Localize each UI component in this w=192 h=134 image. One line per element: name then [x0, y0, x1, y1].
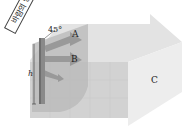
height-label: h	[28, 70, 33, 78]
arrow-c-label: C	[151, 76, 158, 85]
pipe-shadow	[39, 38, 41, 104]
arrow-a-label: A	[72, 30, 79, 39]
wind-diagram: 바람의 방향 45° A B C h	[0, 0, 192, 134]
arrow-b-label: B	[71, 55, 78, 64]
diagram-canvas	[0, 0, 192, 134]
angle-label: 45°	[48, 26, 62, 34]
